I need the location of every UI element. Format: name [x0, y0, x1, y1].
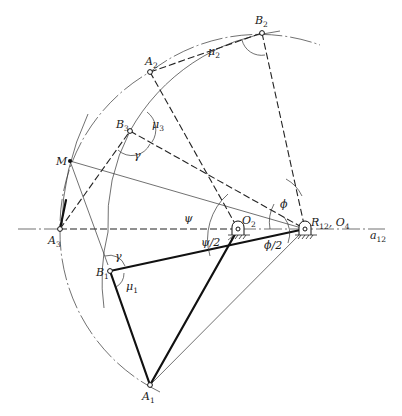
- label-mu3: μ3: [152, 118, 164, 133]
- label-R12-O4: R12, O4: [310, 216, 350, 231]
- label-mu2: μ2: [208, 45, 220, 60]
- labels: A2 B2 B3 M A3 B1 A1 O2 R12, O4 a12 μ2 μ3…: [47, 14, 386, 405]
- joint-A2: [148, 70, 153, 75]
- joints: [58, 31, 265, 388]
- label-A2: A2: [144, 55, 158, 70]
- label-B2: B2: [254, 14, 268, 29]
- linkage-diagram: A2 B2 B3 M A3 B1 A1 O2 R12, O4 a12 μ2 μ3…: [0, 0, 402, 416]
- label-B1: B1: [95, 266, 109, 281]
- label-psi-half: ψ/2: [201, 236, 220, 249]
- construction-lines: [60, 33, 305, 385]
- label-B3: B3: [115, 118, 129, 133]
- label-gamma-top: γ: [134, 149, 141, 162]
- point-M: [68, 159, 72, 163]
- label-O2: O2: [242, 214, 256, 229]
- label-psi: ψ: [184, 212, 193, 225]
- joint-A1: [148, 383, 153, 388]
- label-phi: ϕ: [280, 198, 288, 211]
- joint-A3: [58, 227, 63, 232]
- label-A1: A1: [141, 390, 155, 405]
- label-phi-half: ϕ/2: [264, 239, 282, 252]
- label-a12: a12: [370, 229, 386, 244]
- links: [60, 200, 305, 385]
- arc-M: [62, 114, 88, 226]
- label-gamma-bottom: γ: [115, 250, 122, 263]
- label-mu1: μ1: [126, 280, 138, 295]
- label-A3: A3: [47, 234, 61, 249]
- label-M: M: [55, 155, 68, 168]
- joint-B2: [260, 31, 265, 36]
